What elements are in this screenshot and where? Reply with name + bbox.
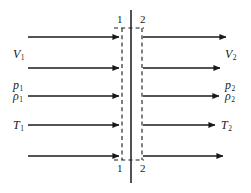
symbol-rho2: ρ <box>225 89 231 103</box>
label-downstream-temperature: T2 <box>221 119 231 131</box>
station-label-top-1: 1 <box>117 14 123 25</box>
station-label-top-2: 2 <box>140 14 146 25</box>
subscript-V1: 1 <box>21 53 25 62</box>
upstream-flow-arrows <box>28 37 119 156</box>
downstream-flow-arrows <box>143 37 226 156</box>
label-downstream-velocity: V2 <box>225 48 236 60</box>
station-label-bottom-1: 1 <box>117 163 123 174</box>
station-label-bottom-2: 2 <box>140 163 146 174</box>
symbol-T2: T <box>221 118 228 132</box>
subscript-T1: 1 <box>20 124 24 133</box>
subscript-V2: 2 <box>233 53 237 62</box>
label-upstream-temperature: T1 <box>13 119 23 131</box>
symbol-rho1: ρ <box>13 89 19 103</box>
subscript-rho2: 2 <box>231 95 235 104</box>
subscript-rho1: 1 <box>19 95 23 104</box>
subscript-T2: 2 <box>228 124 232 133</box>
label-downstream-density: ρ2 <box>225 90 235 102</box>
shock-wave-diagram: 1 2 1 2 V1 p1 ρ1 T1 V2 p2 ρ2 T2 <box>0 0 251 193</box>
station-1-dashed-boundary <box>114 28 144 160</box>
label-upstream-density: ρ1 <box>13 90 23 102</box>
symbol-V2: V <box>225 47 232 61</box>
symbol-V1: V <box>13 47 20 61</box>
diagram-canvas <box>0 0 251 193</box>
label-upstream-velocity: V1 <box>13 48 24 60</box>
symbol-T1: T <box>13 118 20 132</box>
